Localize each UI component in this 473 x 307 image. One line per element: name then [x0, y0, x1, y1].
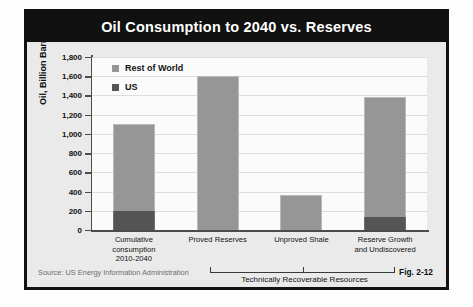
x-axis-line: [91, 230, 429, 232]
bracket-tick-right: [394, 267, 395, 273]
y-axis-tick-label: 200: [38, 207, 82, 216]
legend-label-rest-of-world: Rest of World: [125, 63, 183, 73]
x-axis-label-2: Proved Reserves: [173, 235, 263, 245]
y-axis-tick: [85, 211, 91, 212]
x-axis-label-line: 2010-2040: [89, 254, 179, 264]
y-axis-tick: [85, 230, 91, 231]
x-axis-label-line: Unproved Shale: [256, 235, 346, 245]
legend-label-us: US: [125, 82, 138, 92]
bracket-tick-middle: [303, 267, 304, 273]
legend-item-rest-of-world: Rest of World: [112, 63, 183, 73]
chart-title-bar: Oil Consumption to 2040 vs. Reserves: [27, 12, 446, 42]
chart-figure: Oil Consumption to 2040 vs. Reserves Oil…: [24, 9, 449, 290]
y-axis-tick-label: 1,800: [38, 53, 82, 62]
figure-page: Oil Consumption to 2040 vs. Reserves Oil…: [0, 0, 473, 307]
y-axis-tick: [85, 95, 91, 96]
legend-item-us: US: [112, 82, 183, 92]
legend-swatch-us: [112, 84, 119, 91]
bar-3: [280, 195, 322, 230]
bar-segment-rest-of-world: [280, 195, 322, 230]
y-axis-tick: [85, 192, 91, 193]
x-axis-label-4: Reserve Growthand Undiscovered: [340, 235, 430, 254]
y-axis-tick-label: 0: [38, 226, 82, 235]
y-axis-tick: [85, 153, 91, 154]
y-axis-tick-label: 1,000: [38, 130, 82, 139]
bar-1: [113, 124, 155, 230]
bracket-label: Technically Recoverable Resources: [182, 275, 427, 284]
x-axis-label-line: and Undiscovered: [340, 245, 430, 255]
figure-number: Fig. 2-12: [399, 267, 433, 277]
recoverable-resources-bracket: [210, 267, 395, 274]
bar-2: [197, 76, 239, 230]
chart-title: Oil Consumption to 2040 vs. Reserves: [101, 19, 372, 35]
chart-panel: Oil, Billion Barrels 1,8001,6001,4001,20…: [32, 45, 441, 282]
y-axis-tick-label: 400: [38, 188, 82, 197]
y-axis-tick: [85, 57, 91, 58]
x-axis-label-line: consumption: [89, 245, 179, 255]
x-axis-label-line: Reserve Growth: [340, 235, 430, 245]
legend-swatch-rest-of-world: [112, 65, 119, 72]
y-axis-tick: [85, 134, 91, 135]
bar-segment-us: [364, 217, 406, 230]
y-axis-tick-label: 600: [38, 168, 82, 177]
y-axis-tick: [85, 172, 91, 173]
x-axis-label-1: Cumulativeconsumption2010-2040: [89, 235, 179, 264]
bar-segment-rest-of-world: [364, 97, 406, 216]
x-axis-label-line: Cumulative: [89, 235, 179, 245]
bar-segment-rest-of-world: [197, 76, 239, 230]
bar-segment-rest-of-world: [113, 124, 155, 211]
y-axis-tick-label: 800: [38, 149, 82, 158]
y-axis-tick-label: 1,400: [38, 91, 82, 100]
y-axis-tick: [85, 76, 91, 77]
bracket-tick-left: [210, 267, 211, 273]
gridline: [92, 57, 427, 58]
y-axis-tick-label: 1,600: [38, 72, 82, 81]
x-axis-label-3: Unproved Shale: [256, 235, 346, 245]
y-axis-tick-label: 1,200: [38, 111, 82, 120]
y-axis-tick: [85, 115, 91, 116]
bar-4: [364, 97, 406, 230]
chart-legend: Rest of World US: [112, 63, 183, 101]
bar-segment-us: [113, 211, 155, 230]
x-axis-label-line: Proved Reserves: [173, 235, 263, 245]
source-note: Source: US Energy Information Administra…: [38, 268, 189, 277]
